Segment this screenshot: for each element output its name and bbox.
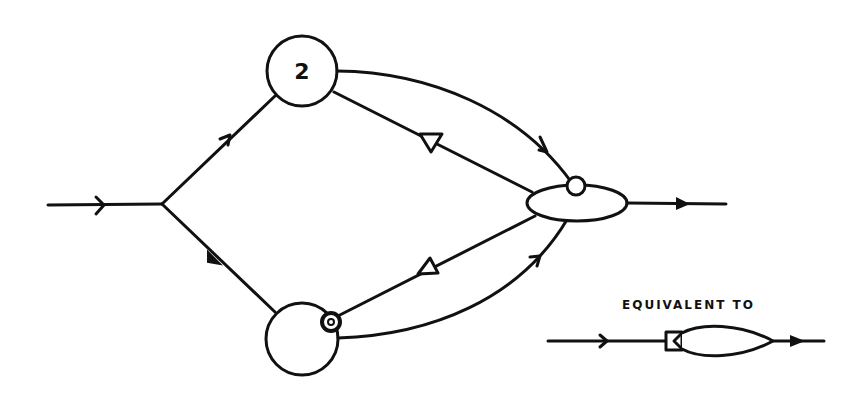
- equivalence-legend: EQUIVALENT TO: [548, 298, 824, 356]
- open-arrow-icon: [539, 137, 547, 152]
- node-top-label: 2: [294, 59, 309, 84]
- merge-ellipse: [527, 177, 627, 221]
- legend-ellipse: [682, 326, 773, 355]
- edge-merge-to-bottom-feedback: [330, 216, 535, 320]
- node-top: 2: [267, 36, 337, 106]
- input-edge: [48, 197, 162, 214]
- edge-bottom-to-merge: [338, 218, 568, 338]
- edge-merge-to-top-feedback: [334, 92, 532, 192]
- open-triangle-icon: [420, 134, 442, 152]
- flow-diagram: 2 EQUIVALENT TO: [0, 0, 859, 394]
- edge-split-to-top: [162, 96, 275, 204]
- gate-bottom: [322, 313, 340, 331]
- output-edge: [627, 197, 726, 210]
- open-triangle-icon: [418, 258, 438, 274]
- edge-top-to-merge: [337, 71, 572, 183]
- equivalent-caption: EQUIVALENT TO: [622, 298, 755, 312]
- edge-split-to-bottom: [162, 204, 275, 312]
- filled-arrow-icon: [676, 197, 690, 210]
- gate-top: [567, 177, 585, 195]
- filled-arrow-icon: [790, 335, 805, 347]
